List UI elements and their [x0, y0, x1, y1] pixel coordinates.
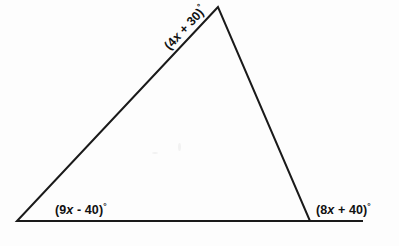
angle-label-bottom-left: (9x - 40)° — [55, 202, 107, 217]
angle-label-bottom-right-prefix: (8 — [316, 203, 327, 217]
angle-label-bottom-left-suffix: - 40) — [73, 203, 103, 217]
degree-symbol-icon: ° — [103, 201, 107, 211]
angle-label-bottom-left-prefix: (9 — [55, 203, 66, 217]
triangle-angle-diagram: (4x + 30)° (9x - 40)° (8x + 40)° — [0, 0, 399, 246]
angle-label-bottom-right: (8x + 40)° — [316, 202, 371, 217]
degree-symbol-icon: ° — [367, 201, 371, 211]
angle-label-bottom-right-suffix: + 40) — [334, 203, 367, 217]
